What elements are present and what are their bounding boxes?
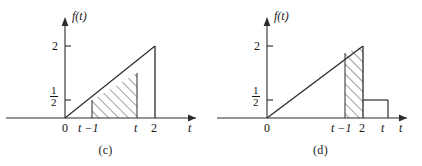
- y-axis-arrow-d: [264, 17, 271, 26]
- chart-panel-c: f(t) 2 1 2 0 t −1 t 2 t (c): [0, 0, 211, 166]
- x-tick-label-tminus1-d: t −1: [331, 122, 351, 134]
- y-axis-label-c: f(t): [72, 10, 87, 22]
- x-tick-label-0-c: 0: [62, 122, 68, 134]
- shaded-region-c: [92, 73, 137, 118]
- panel-caption-c: (c): [0, 143, 211, 158]
- chart-c-graphic: [0, 0, 211, 166]
- x-tick-label-2-c: 2: [151, 122, 157, 134]
- fraction-denominator-d: 2: [252, 97, 260, 108]
- y-tick-label-half-d: 1 2: [252, 85, 260, 108]
- panel-caption-d: (d): [211, 143, 422, 158]
- y-axis-label-d: f(t): [274, 10, 289, 22]
- y-axis-arrow-c: [62, 17, 69, 26]
- x-tick-label-t-c: t: [134, 122, 137, 134]
- y-tick-label-2-d: 2: [254, 40, 260, 52]
- y-tick-label-half-c: 1 2: [50, 85, 58, 108]
- x-tick-label-t-d: t: [381, 122, 384, 134]
- x-tick-label-0-d: 0: [264, 122, 270, 134]
- x-tick-label-tminus1-c: t −1: [78, 122, 98, 134]
- x-axis-label-c: t: [188, 122, 191, 134]
- x-tick-label-2-d: 2: [359, 122, 365, 134]
- chart-panel-d: f(t) 2 1 2 0 t −1 2 t t (d): [211, 0, 422, 166]
- chart-d-graphic: [211, 0, 422, 166]
- figure-root: f(t) 2 1 2 0 t −1 t 2 t (c): [0, 0, 422, 166]
- y-tick-label-2-c: 2: [52, 40, 58, 52]
- fraction-denominator-c: 2: [50, 97, 58, 108]
- x-axis-label-d: t: [399, 122, 402, 134]
